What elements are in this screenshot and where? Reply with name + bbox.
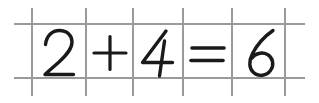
cell-result[interactable] [232, 24, 285, 78]
cell-left-operand[interactable] [32, 24, 86, 78]
cell-operator-equals[interactable] [183, 24, 232, 78]
worksheet-canvas [0, 0, 319, 103]
cell-operator-plus[interactable] [86, 24, 133, 78]
cell-right-operand[interactable] [133, 24, 183, 78]
